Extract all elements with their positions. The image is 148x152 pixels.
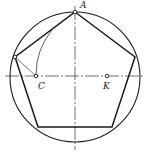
- label-c: C: [38, 82, 45, 91]
- point-left-vertex: [13, 55, 17, 59]
- point-k: [105, 74, 109, 78]
- diagram-canvas: [0, 0, 148, 152]
- label-a: A: [80, 1, 87, 10]
- point-a: [73, 10, 77, 14]
- point-c: [34, 74, 38, 78]
- construction-arc: [36, 30, 52, 76]
- pentagon-construction-diagram: A C K: [0, 0, 148, 152]
- label-k: K: [103, 82, 110, 91]
